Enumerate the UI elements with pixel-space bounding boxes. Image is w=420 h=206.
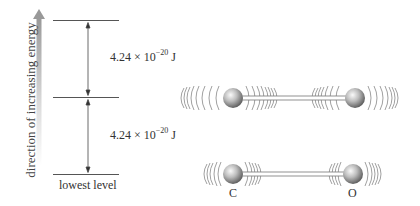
atom-carbon-icon [223, 88, 243, 108]
energy-gap-upper: 4.24 × 10−20 J [110, 49, 176, 65]
energy-diagram-canvas [0, 0, 420, 206]
atom-label-c: C [229, 186, 237, 201]
axis-label: direction of increasing energy [23, 22, 39, 177]
atom-oxygen-icon [343, 164, 363, 184]
energy-gap-lower: 4.24 × 10−20 J [110, 127, 176, 143]
vibration-arcs-right-outer [368, 86, 398, 110]
atom-carbon-icon [223, 164, 243, 184]
bond [240, 172, 346, 176]
molecule-excited [181, 86, 398, 110]
atom-label-o: O [348, 186, 357, 201]
bond [240, 96, 350, 100]
molecule-ground [204, 162, 381, 186]
energy-levels [53, 21, 119, 175]
lowest-level-label: lowest level [59, 178, 117, 193]
vibration-arcs-left-outer [181, 86, 219, 110]
atom-oxygen-icon [345, 88, 365, 108]
